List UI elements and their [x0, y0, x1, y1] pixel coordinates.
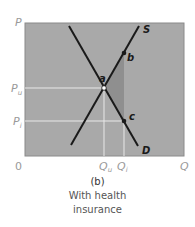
point-c-marker [122, 119, 127, 124]
quantity-qu-label: Qu [99, 160, 113, 174]
x-axis-label: Q [180, 160, 189, 173]
price-pi-label: Pi [13, 115, 22, 130]
point-b-label: b [127, 52, 134, 63]
point-a-marker [102, 86, 107, 91]
supply-label: S [143, 24, 150, 35]
demand-label: D [142, 145, 150, 156]
point-a-label: a [99, 73, 106, 84]
caption-line-1: With health [0, 189, 195, 202]
y-axis-label: P [15, 16, 22, 29]
price-pu-label: Pu [11, 82, 23, 97]
panel-label: (b) [0, 175, 195, 188]
point-b-marker [122, 51, 127, 56]
origin-label: 0 [15, 160, 22, 173]
point-c-label: c [129, 111, 135, 122]
quantity-qi-label: Qi [117, 160, 128, 174]
caption-line-2: insurance [0, 203, 195, 216]
